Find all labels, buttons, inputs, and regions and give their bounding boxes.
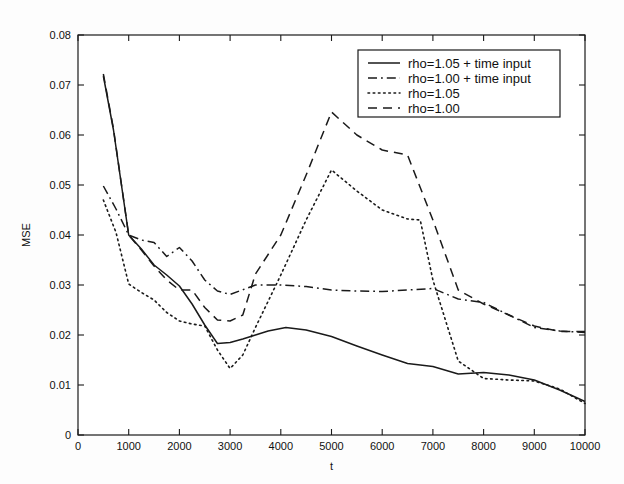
y-axis-tick-label: 0.05: [50, 179, 71, 191]
x-axis-tick-label: 9000: [522, 440, 546, 452]
mse-vs-t-line-chart: 0100020003000400050006000700080009000100…: [0, 0, 624, 484]
y-axis-tick-label: 0.03: [50, 279, 71, 291]
x-axis-tick-label: 7000: [421, 440, 445, 452]
chart-page: 0100020003000400050006000700080009000100…: [0, 0, 624, 484]
y-axis-tick-label: 0.04: [50, 229, 71, 241]
x-axis-tick-label: 10000: [570, 440, 601, 452]
x-axis-tick-label: 6000: [370, 440, 394, 452]
x-axis-tick-label: 5000: [319, 440, 343, 452]
x-axis-tick-label: 4000: [269, 440, 293, 452]
legend-label-2: rho=1.05: [408, 86, 460, 101]
y-axis-tick-label: 0.07: [50, 79, 71, 91]
legend-label-1: rho=1.00 + time input: [408, 71, 531, 86]
x-axis-tick-label: 1000: [116, 440, 140, 452]
x-axis-tick-label: 2000: [167, 440, 191, 452]
y-axis-tick-label: 0.02: [50, 329, 71, 341]
x-axis-tick-label: 8000: [471, 440, 495, 452]
y-axis-tick-label: 0: [65, 429, 71, 441]
y-axis-tick-label: 0.08: [50, 29, 71, 41]
legend-label-3: rho=1.00: [408, 101, 460, 116]
y-axis-title: MSE: [20, 223, 32, 247]
y-axis-tick-label: 0.01: [50, 379, 71, 391]
x-axis-title: t: [330, 460, 333, 472]
y-axis-tick-label: 0.06: [50, 129, 71, 141]
x-axis-tick-label: 0: [75, 440, 81, 452]
legend-label-0: rho=1.05 + time input: [408, 56, 531, 71]
x-axis-tick-label: 3000: [218, 440, 242, 452]
